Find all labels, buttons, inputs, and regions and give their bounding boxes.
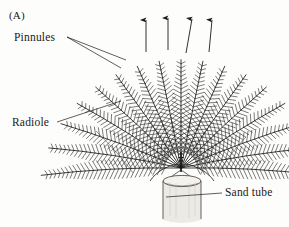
panel-letter: (A) — [9, 9, 25, 21]
sand-tube-rim — [163, 175, 201, 186]
label-sand-tube: Sand tube — [225, 186, 272, 198]
sand-tube — [163, 175, 201, 223]
label-pinnules: Pinnules — [14, 31, 55, 43]
label-radiole: Radiole — [12, 116, 49, 128]
sand-tube-body-fill — [163, 181, 201, 223]
